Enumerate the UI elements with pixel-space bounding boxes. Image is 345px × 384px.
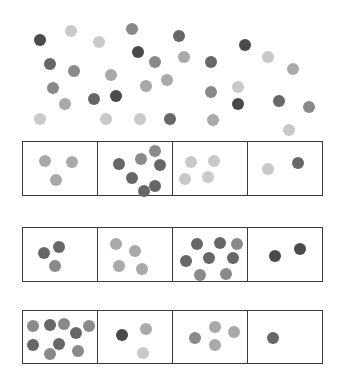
dot (228, 326, 240, 338)
dot (105, 69, 117, 81)
dot (231, 238, 243, 250)
dot (49, 260, 61, 272)
dot (149, 145, 161, 157)
dot (132, 46, 144, 58)
dot (191, 238, 203, 250)
dot (135, 153, 147, 165)
dot (207, 114, 219, 126)
dot (178, 51, 190, 63)
box-row-1 (22, 141, 323, 196)
dot (58, 318, 70, 330)
dot (149, 56, 161, 68)
dot (134, 113, 146, 125)
dot (53, 338, 65, 350)
dot (161, 74, 173, 86)
box-cell (98, 311, 173, 363)
dot (100, 113, 112, 125)
box-cell (173, 142, 248, 195)
dot (72, 345, 84, 357)
dot (93, 36, 105, 48)
box-cell (23, 142, 98, 195)
box-cell (23, 311, 98, 363)
dot (53, 241, 65, 253)
dot (44, 319, 56, 331)
dot (136, 263, 148, 275)
dot (50, 174, 62, 186)
box-cell (98, 142, 173, 195)
dot (194, 269, 206, 281)
dot (154, 159, 166, 171)
dot (44, 348, 56, 360)
dot (267, 332, 279, 344)
box-cell (248, 142, 322, 195)
dot (262, 163, 274, 175)
dot (287, 63, 299, 75)
dot (110, 90, 122, 102)
dot (189, 332, 201, 344)
dot (214, 237, 226, 249)
dot (232, 98, 244, 110)
dot (269, 250, 281, 262)
dot (208, 155, 220, 167)
dot (227, 252, 239, 264)
dot (164, 113, 176, 125)
box-cell (173, 311, 248, 363)
dot (294, 243, 306, 255)
dot (209, 339, 221, 351)
box-cell (98, 228, 173, 281)
dot (27, 339, 39, 351)
dot (113, 260, 125, 272)
box-row-2 (22, 227, 323, 282)
dot (140, 323, 152, 335)
dot (303, 101, 315, 113)
dot (113, 158, 125, 170)
dot (262, 51, 274, 63)
box-cell (248, 228, 322, 281)
dot (27, 320, 39, 332)
dot (283, 124, 295, 136)
box-row-3 (22, 310, 323, 364)
dot (205, 56, 217, 68)
box-cell (248, 311, 322, 363)
dot (292, 157, 304, 169)
dot (220, 268, 232, 280)
dot (65, 25, 77, 37)
dot (116, 329, 128, 341)
dot (138, 185, 150, 197)
dot (137, 347, 149, 359)
dot (179, 173, 191, 185)
dot (126, 172, 138, 184)
dot (66, 156, 78, 168)
box-cell (23, 228, 98, 281)
dot (126, 23, 138, 35)
dot (68, 65, 80, 77)
dot (202, 171, 214, 183)
dot (110, 238, 122, 250)
dot (185, 156, 197, 168)
dot (232, 81, 244, 93)
dot (209, 321, 221, 333)
dot (180, 255, 192, 267)
box-cell (173, 228, 248, 281)
dot (129, 245, 141, 257)
dot (59, 98, 71, 110)
dot (47, 82, 59, 94)
dot (83, 320, 95, 332)
dot (203, 252, 215, 264)
dot (205, 86, 217, 98)
dot (273, 95, 285, 107)
dot (34, 34, 46, 46)
dot (34, 113, 46, 125)
dot (149, 180, 161, 192)
dot (239, 39, 251, 51)
dot (39, 155, 51, 167)
dot (38, 247, 50, 259)
dot (140, 80, 152, 92)
dot (88, 93, 100, 105)
dot (173, 30, 185, 42)
dot (70, 327, 82, 339)
dot (44, 58, 56, 70)
